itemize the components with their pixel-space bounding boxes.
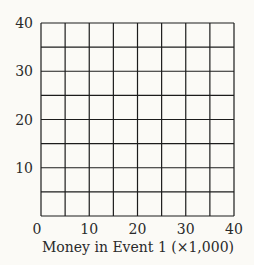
x-tick-label: 0 <box>33 221 42 237</box>
x-axis-ticks: 010203040 <box>33 221 243 237</box>
y-tick-label: 10 <box>15 160 33 176</box>
y-axis-ticks: 10203040 <box>15 15 33 176</box>
y-tick-label: 30 <box>15 63 33 79</box>
chart: 10203040 010203040 Money in Event 1 (×1,… <box>0 0 254 265</box>
x-tick-label: 30 <box>177 221 195 237</box>
y-tick-label: 40 <box>15 15 33 31</box>
x-tick-label: 20 <box>129 221 147 237</box>
y-tick-label: 20 <box>15 112 33 128</box>
grid <box>41 23 234 216</box>
x-tick-label: 10 <box>80 221 98 237</box>
x-tick-label: 40 <box>225 221 243 237</box>
x-axis-label: Money in Event 1 (×1,000) <box>42 239 234 255</box>
